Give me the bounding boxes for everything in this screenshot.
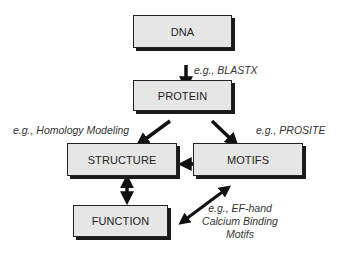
label-ef-hand: e.g., EF-hand Calcium Binding Motifs <box>196 202 284 241</box>
label-blastx: e.g., BLASTX <box>194 64 258 76</box>
label-ef-hand-line2: Calcium Binding <box>196 215 284 228</box>
node-motifs-label: MOTIFS <box>227 154 269 166</box>
label-prosite: e.g., PROSITE <box>256 124 325 136</box>
arrow-protein-to-structure <box>140 121 170 143</box>
node-function: FUNCTION <box>73 205 168 237</box>
arrow-protein-to-motifs <box>212 121 235 143</box>
label-ef-hand-line3: Motifs <box>196 228 284 241</box>
node-dna: DNA <box>133 15 232 48</box>
label-homology-modeling: e.g., Homology Modeling <box>13 124 129 136</box>
node-function-label: FUNCTION <box>92 215 150 227</box>
node-structure: STRUCTURE <box>67 143 177 176</box>
node-motifs: MOTIFS <box>193 143 303 176</box>
label-ef-hand-line1: e.g., EF-hand <box>196 202 284 215</box>
node-structure-label: STRUCTURE <box>88 154 157 166</box>
node-dna-label: DNA <box>171 26 195 38</box>
node-protein-label: PROTEIN <box>158 90 208 102</box>
node-protein: PROTEIN <box>133 80 232 111</box>
